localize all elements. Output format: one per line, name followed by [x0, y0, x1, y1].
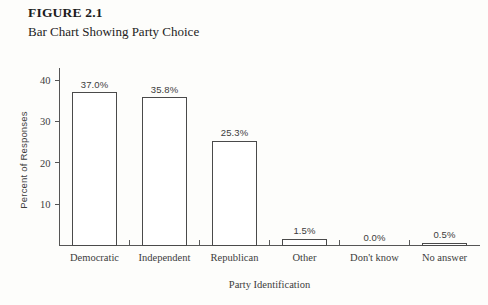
- bar-value-label: 25.3%: [221, 127, 249, 138]
- category-label: Republican: [211, 252, 260, 263]
- chart-canvas: 10203040 37.0%35.8%25.3%1.5%0.0%0.5% Dem…: [0, 0, 488, 305]
- value-labels-group: 37.0%35.8%25.3%1.5%0.0%0.5%: [81, 79, 456, 243]
- category-label: Independent: [139, 252, 191, 263]
- category-label: Other: [293, 252, 317, 263]
- bars-group: [73, 93, 467, 246]
- category-label: Democratic: [70, 252, 119, 263]
- y-axis-tick-label: 20: [40, 158, 51, 169]
- bar: [73, 93, 117, 246]
- bar: [282, 239, 326, 245]
- bar-value-label: 0.5%: [433, 229, 456, 240]
- category-label: No answer: [422, 252, 468, 263]
- bar: [142, 98, 186, 246]
- figure-root: FIGURE 2.1 Bar Chart Showing Party Choic…: [0, 0, 488, 305]
- bar-value-label: 37.0%: [81, 79, 109, 90]
- bar: [422, 243, 466, 245]
- y-axis-tick-label: 40: [40, 75, 51, 86]
- category-labels-group: DemocraticIndependentRepublicanOtherDon'…: [70, 252, 468, 263]
- bar: [212, 141, 256, 245]
- y-axis-title: Percent of Responses: [18, 111, 29, 209]
- category-label: Don't know: [350, 252, 399, 263]
- y-axis: 10203040: [40, 68, 60, 246]
- x-axis: [60, 240, 480, 246]
- y-axis-tick-label: 30: [40, 116, 51, 127]
- x-axis-title: Party Identification: [229, 279, 311, 290]
- bar-value-label: 0.0%: [363, 232, 386, 243]
- bar-value-label: 1.5%: [293, 225, 316, 236]
- y-axis-tick-label: 10: [40, 199, 51, 210]
- bar-chart: 10203040 37.0%35.8%25.3%1.5%0.0%0.5% Dem…: [0, 0, 488, 305]
- bar-value-label: 35.8%: [151, 84, 179, 95]
